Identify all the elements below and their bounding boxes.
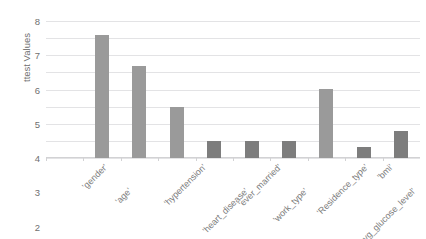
y-axis-tick-label: 6 [35, 84, 40, 95]
y-axis-tick-label: 7 [35, 50, 40, 61]
bar-slot [233, 21, 270, 158]
bar-slot [383, 21, 420, 158]
bar-slot [46, 21, 83, 158]
x-axis-label: 'heart_disease' [200, 186, 249, 235]
bar [245, 141, 259, 158]
bar [282, 141, 296, 158]
bar-slot [345, 21, 382, 158]
plot-area: 876543210 [46, 21, 420, 158]
bar [394, 131, 408, 158]
bar [207, 141, 221, 158]
x-axis-label: 'Residence_type' [315, 162, 370, 217]
bar [319, 89, 333, 158]
x-axis-label: 'hypertension' [162, 162, 208, 208]
bar-chart: ttest Values 876543210 'gender''age''hyp… [0, 0, 426, 239]
bar [95, 35, 109, 158]
x-axis-label: 'ever_married' [237, 162, 284, 209]
chart-title [0, 0, 426, 1]
y-axis-tick-label: 5 [35, 118, 40, 129]
bar-slot [158, 21, 195, 158]
bar-slot [83, 21, 120, 158]
x-axis-label: 'gender' [80, 162, 109, 191]
x-axis-label: 'bmi' [375, 162, 395, 182]
x-axis-label: 'work_type' [271, 186, 310, 225]
bar-slot [196, 21, 233, 158]
y-axis-title: ttest Values [21, 3, 32, 113]
bar-slot [270, 21, 307, 158]
bar [132, 66, 146, 158]
bar-slot [308, 21, 345, 158]
y-axis-tick-label: 8 [35, 16, 40, 27]
x-axis-label: 'avg_glucose_level' [355, 186, 417, 239]
bar-slot [121, 21, 158, 158]
bar [170, 107, 184, 158]
bar [357, 147, 371, 158]
y-axis-tick-label: 3 [35, 187, 40, 198]
x-axis-label: 'age' [113, 186, 133, 206]
y-axis-tick-label: 4 [35, 153, 40, 164]
bar-series [46, 21, 420, 158]
x-axis-labels: 'gender''age''hypertension''heart_diseas… [46, 160, 420, 239]
y-axis-tick-label: 2 [35, 221, 40, 232]
